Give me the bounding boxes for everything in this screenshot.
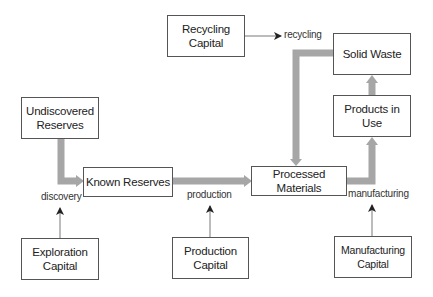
node-products-in-use: Products in Use <box>333 95 411 137</box>
discovery-flow <box>61 138 76 181</box>
node-exploration-capital: Exploration Capital <box>21 238 99 280</box>
node-solid-waste: Solid Waste <box>333 33 411 75</box>
edge-label-manufacturing: manufacturing <box>348 188 409 199</box>
node-label: Solid Waste <box>343 47 402 61</box>
edge-label-production: production <box>187 189 232 200</box>
arrowhead-recycle-icon <box>290 159 302 166</box>
node-undiscovered-reserves: Undiscovered Reserves <box>21 97 99 139</box>
edge-label-recycling: recycling <box>284 29 322 40</box>
node-label: Known Reserves <box>86 175 170 189</box>
node-label: Production Capital <box>184 244 237 272</box>
node-label: Manufacturing Capital <box>341 243 405 271</box>
manufacturing-flow <box>346 145 372 181</box>
node-recycling-capital: Recycling Capital <box>167 15 245 57</box>
arrowhead-products-icon <box>366 137 378 145</box>
node-production-capital: Production Capital <box>172 237 249 279</box>
arrowhead-solid-icon <box>366 75 378 83</box>
node-label: Exploration Capital <box>32 245 87 273</box>
node-manufacturing-capital: Manufacturing Capital <box>334 236 412 278</box>
node-label: Products in Use <box>334 102 410 130</box>
node-label: Processed Materials <box>252 167 346 195</box>
node-processed-materials: Processed Materials <box>251 166 347 196</box>
node-label: Undiscovered Reserves <box>26 104 94 132</box>
recycling-flow <box>296 53 333 159</box>
node-label: Recycling Capital <box>182 22 230 50</box>
node-known-reserves: Known Reserves <box>83 167 173 197</box>
edge-label-discovery: discovery <box>41 191 81 202</box>
